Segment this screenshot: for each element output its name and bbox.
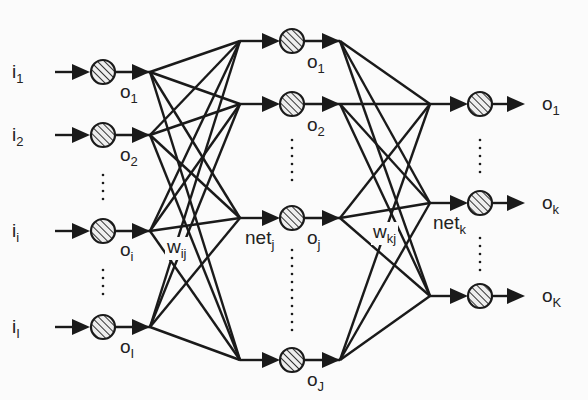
weight-connection-ij: [150, 135, 240, 218]
ellipsis-dots: [479, 139, 482, 142]
arrowhead-icon: [322, 352, 340, 368]
hidden-neuron: [280, 92, 304, 116]
arrowhead-icon: [132, 319, 150, 335]
ellipsis-dots: [102, 293, 105, 296]
hidden-neuron: [280, 29, 304, 53]
input-output-label-2: o2: [120, 145, 138, 168]
output-net-label-k: netk: [433, 213, 466, 236]
ellipsis-dots: [291, 321, 294, 324]
input-label-2: i2: [12, 125, 23, 148]
arrowhead-icon: [262, 33, 280, 49]
ellipsis-dots: [479, 237, 482, 240]
arrowhead-icon: [132, 127, 150, 143]
ellipsis-dots: [102, 285, 105, 288]
hidden-net-label-j: netj: [245, 228, 274, 251]
input-neuron: [91, 219, 115, 243]
ellipsis-dots: [291, 171, 294, 174]
weight-connection-ij: [150, 41, 240, 135]
output-neuron: [468, 92, 492, 116]
arrowhead-icon: [322, 33, 340, 49]
arrowhead-icon: [72, 223, 90, 239]
weight-connection-ij: [150, 41, 240, 327]
ellipsis-dots: [291, 257, 294, 260]
ellipsis-dots: [291, 297, 294, 300]
arrowhead-icon: [507, 288, 525, 304]
arrowhead-icon: [322, 96, 340, 112]
output-neuron: [468, 191, 492, 215]
arrowhead-icon: [72, 319, 90, 335]
arrowhead-icon: [450, 288, 468, 304]
ellipsis-dots: [291, 273, 294, 276]
hidden-output-label-1: o1: [307, 52, 325, 75]
ellipsis-dots: [291, 147, 294, 150]
output-label-K: oK: [542, 286, 561, 309]
weight-connection-kj: [340, 296, 430, 360]
arrowhead-icon: [450, 195, 468, 211]
ellipsis-dots: [291, 313, 294, 316]
ellipsis-dots: [291, 155, 294, 158]
arrowhead-icon: [450, 96, 468, 112]
ellipsis-dots: [291, 179, 294, 182]
ellipsis-dots: [291, 265, 294, 268]
ellipsis-dots: [479, 269, 482, 272]
ellipsis-dots: [291, 163, 294, 166]
input-neuron: [91, 123, 115, 147]
hidden-output-label-2: o2: [307, 115, 325, 138]
arrowhead-icon: [132, 223, 150, 239]
ellipsis-dots: [479, 155, 482, 158]
ellipsis-dots: [102, 269, 105, 272]
weight-connection-kj: [340, 41, 430, 104]
ellipsis-dots: [479, 147, 482, 150]
output-label-1: o1: [542, 94, 560, 117]
ellipsis-dots: [291, 249, 294, 252]
ellipsis-dots: [102, 174, 105, 177]
ellipsis-dots: [479, 171, 482, 174]
output-neuron: [468, 284, 492, 308]
arrowhead-icon: [132, 64, 150, 80]
input-output-label-1: o1: [120, 82, 138, 105]
hidden-neuron: [280, 206, 304, 230]
weight-connection-ij: [150, 327, 240, 360]
input-neuron: [91, 315, 115, 339]
hidden-neuron: [280, 348, 304, 372]
ellipsis-dots: [291, 289, 294, 292]
input-label-I: iI: [12, 317, 20, 340]
output-label-k: ok: [542, 193, 559, 216]
neural-network-diagram: i1 i2 ii iI o1 o2 oi oI wij o1 o2 netj o…: [0, 0, 588, 400]
ellipsis-dots: [479, 245, 482, 248]
arrowhead-icon: [262, 96, 280, 112]
ellipsis-dots: [479, 261, 482, 264]
input-label-i: ii: [12, 221, 19, 244]
weight-label-kj: wkj: [371, 222, 398, 245]
ellipsis-dots: [291, 281, 294, 284]
ellipsis-dots: [479, 163, 482, 166]
ellipsis-dots: [479, 253, 482, 256]
arrowhead-icon: [507, 96, 525, 112]
ellipsis-dots: [291, 305, 294, 308]
input-output-label-i: oi: [120, 240, 133, 263]
ellipsis-dots: [102, 277, 105, 280]
ellipsis-dots: [291, 329, 294, 332]
input-label-1: i1: [12, 62, 23, 85]
weight-connection-ij: [150, 218, 240, 327]
arrowhead-icon: [72, 64, 90, 80]
weight-label-ij: wij: [165, 237, 189, 260]
arrowhead-icon: [507, 195, 525, 211]
arrowhead-icon: [262, 210, 280, 226]
ellipsis-dots: [102, 182, 105, 185]
weight-connection-ij: [150, 72, 240, 218]
ellipsis-dots: [291, 139, 294, 142]
network-graph: [0, 0, 588, 400]
input-neuron: [91, 60, 115, 84]
hidden-output-label-J: oJ: [307, 370, 324, 393]
arrowhead-icon: [322, 210, 340, 226]
ellipsis-dots: [102, 198, 105, 201]
arrowhead-icon: [72, 127, 90, 143]
weight-connection-kj: [340, 203, 430, 218]
hidden-output-label-j: oj: [307, 228, 320, 251]
arrowhead-icon: [262, 352, 280, 368]
weight-connection-kj: [340, 104, 430, 203]
ellipsis-dots: [102, 190, 105, 193]
input-output-label-I: oI: [120, 337, 134, 360]
